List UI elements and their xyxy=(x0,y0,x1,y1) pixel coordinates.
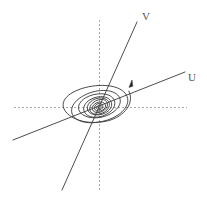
trajectory-arrow-icon xyxy=(129,80,133,87)
eigenline-v-label: V xyxy=(142,10,150,22)
spiral-trajectory xyxy=(59,69,137,137)
eigenline-u-label: U xyxy=(188,71,196,83)
phase-portrait-canvas: V U xyxy=(0,0,207,207)
phase-portrait-figure: V U xyxy=(0,0,207,207)
